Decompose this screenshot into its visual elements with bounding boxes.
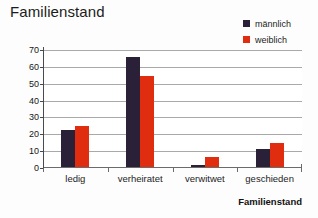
plot-area <box>43 50 302 168</box>
bar-ledig-männlich <box>61 130 75 167</box>
legend-swatch-icon-maennlich <box>243 20 250 27</box>
y-tick-label: 30 <box>29 113 39 122</box>
bar-verheiratet-männlich <box>126 57 140 167</box>
x-tick-mark <box>173 168 174 172</box>
y-tick-label: 50 <box>29 79 39 88</box>
x-tick-mark <box>301 168 302 172</box>
bar-ledig-weiblich <box>75 126 89 167</box>
y-tick-label: 40 <box>29 96 39 105</box>
y-tick-label: 70 <box>29 46 39 55</box>
x-axis-title: Familienstand <box>238 196 302 207</box>
bars-layer <box>43 50 302 168</box>
legend-swatch-icon-weiblich <box>243 36 250 43</box>
x-tick-label-geschieden: geschieden <box>245 173 294 184</box>
x-tick-mark <box>108 168 109 172</box>
chart-legend: männlich weiblich <box>243 18 291 45</box>
x-tick-label-verwitwet: verwitwet <box>185 173 225 184</box>
legend-label-weiblich: weiblich <box>255 35 287 45</box>
bar-geschieden-weiblich <box>270 143 284 167</box>
bar-verheiratet-weiblich <box>140 76 154 167</box>
y-tick-label: 10 <box>29 147 39 156</box>
y-tick-label: 60 <box>29 62 39 71</box>
bar-verwitwet-weiblich <box>205 157 219 167</box>
bar-geschieden-männlich <box>256 149 270 167</box>
legend-entry-maennlich: männlich <box>243 18 291 29</box>
x-tick-label-ledig: ledig <box>65 173 85 184</box>
x-tick-label-verheiratet: verheiratet <box>118 173 163 184</box>
legend-entry-weiblich: weiblich <box>243 34 291 45</box>
chart-title: Familienstand <box>10 3 105 20</box>
chart-screenshot: Familienstand männlich weiblich % der Pa… <box>0 0 318 218</box>
x-tick-mark <box>43 168 44 172</box>
x-axis-tick-labels: ledigverheiratetverwitwetgeschieden <box>43 168 302 186</box>
y-tick-label: 20 <box>29 130 39 139</box>
legend-label-maennlich: männlich <box>255 19 291 29</box>
x-tick-mark <box>237 168 238 172</box>
y-tick-label: 0 <box>34 164 39 173</box>
y-axis-tick-labels: 010203040506070 <box>0 50 43 168</box>
bar-verwitwet-männlich <box>191 165 205 167</box>
y-axis-line <box>43 47 44 168</box>
